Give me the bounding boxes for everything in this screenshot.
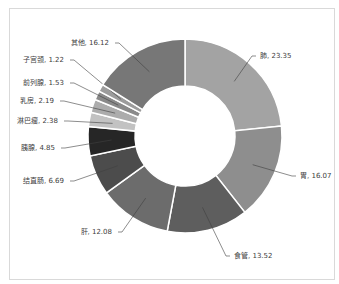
- data-label: 食管, 13.52: [234, 251, 273, 260]
- data-label: 肝, 12.08: [81, 228, 113, 236]
- data-label: 胰腺, 4.85: [21, 143, 55, 152]
- data-label: 前列腺, 1.53: [23, 78, 64, 87]
- data-label: 淋巴瘤, 2.38: [17, 116, 58, 125]
- data-label: 结直肠, 6.69: [23, 176, 64, 185]
- data-label: 子宫颈, 1.22: [23, 55, 64, 64]
- data-label: 肺, 23.35: [260, 52, 292, 60]
- data-label: 乳房, 2.19: [20, 96, 54, 105]
- doughnut-chart: 肺, 23.35胃, 16.07食管, 13.52肝, 12.08结直肠, 6.…: [0, 0, 339, 284]
- data-label: 其他, 16.12: [71, 38, 110, 47]
- data-label: 胃, 16.07: [300, 172, 332, 180]
